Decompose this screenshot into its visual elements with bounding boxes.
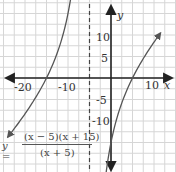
y-tick-label-10: 10 bbox=[96, 32, 110, 43]
y-tick-label--5: -5 bbox=[96, 95, 107, 106]
y-tick-label-5: 5 bbox=[101, 53, 108, 64]
fraction-bar bbox=[22, 144, 92, 145]
equation-denominator: (x + 5) bbox=[40, 147, 75, 158]
y-tick-label--10: -10 bbox=[92, 116, 110, 127]
curve-left-branch bbox=[8, 0, 74, 137]
x-tick-label--20: -20 bbox=[14, 82, 32, 93]
equation-numerator: (x − 5)(x + 15) bbox=[24, 131, 99, 142]
y-axis-label: y bbox=[117, 10, 123, 21]
equation-lhs: y = bbox=[2, 140, 10, 162]
x-tick-label--10: -10 bbox=[58, 82, 76, 93]
x-tick-label-10: 10 bbox=[145, 80, 159, 91]
x-axis-label: x bbox=[164, 80, 170, 91]
